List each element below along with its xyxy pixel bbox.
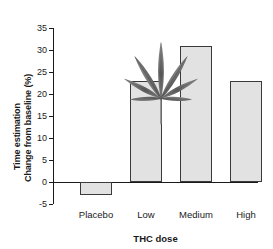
y-tick-mark bbox=[49, 28, 53, 29]
y-axis-title: Time estimation Change from baseline (%) bbox=[0, 0, 34, 200]
y-tick-label: 20 bbox=[37, 90, 47, 99]
x-category-label-low: Low bbox=[137, 209, 154, 220]
y-tick-label: 35 bbox=[37, 24, 47, 33]
y-tick-mark bbox=[49, 160, 53, 161]
plot-area: 35302520151050-5 PlaceboLowMediumHigh bbox=[53, 28, 258, 204]
y-tick-mark bbox=[49, 138, 53, 139]
y-tick-label: 0 bbox=[42, 178, 47, 187]
y-axis-title-line-2: Change from baseline (%) bbox=[23, 74, 33, 182]
x-category-label-placebo: Placebo bbox=[79, 209, 113, 220]
y-tick-mark bbox=[49, 50, 53, 51]
bar-low bbox=[130, 81, 162, 182]
y-tick-mark bbox=[49, 204, 53, 205]
x-category-label-medium: Medium bbox=[179, 209, 213, 220]
y-tick-mark bbox=[49, 182, 53, 183]
y-tick-mark bbox=[49, 72, 53, 73]
y-tick-label: 15 bbox=[37, 112, 47, 121]
y-tick-label: 5 bbox=[42, 156, 47, 165]
bar-medium bbox=[180, 46, 212, 182]
y-tick-mark bbox=[49, 94, 53, 95]
x-category-label-high: High bbox=[236, 209, 256, 220]
y-tick-label: 30 bbox=[37, 46, 47, 55]
bar-high bbox=[230, 81, 262, 182]
y-axis-title-line-1: Time estimation bbox=[12, 103, 22, 170]
y-tick-label: 25 bbox=[37, 68, 47, 77]
y-axis-spine bbox=[53, 28, 54, 204]
y-tick-label: 10 bbox=[37, 134, 47, 143]
bar-placebo bbox=[80, 182, 112, 195]
y-tick-label: -5 bbox=[39, 200, 47, 209]
y-tick-mark bbox=[49, 116, 53, 117]
x-axis-title: THC dose bbox=[53, 233, 258, 244]
bar-chart-figure: Time estimation Change from baseline (%)… bbox=[0, 0, 273, 249]
